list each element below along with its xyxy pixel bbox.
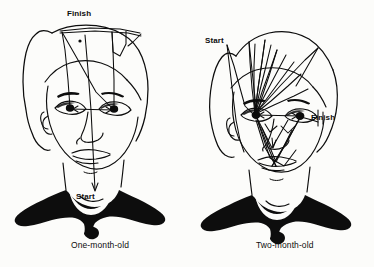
annotation-start-left: Start — [76, 192, 95, 201]
nose-left — [77, 112, 103, 144]
chin-crease-left — [84, 172, 97, 174]
scan-path-one-month-old — [60, 28, 141, 191]
panel-one-month-old — [15, 25, 166, 239]
chin-crease-right — [270, 179, 283, 181]
figure-container: Finish Start Start Finish One-month-old … — [0, 0, 374, 267]
mouth-left — [72, 150, 110, 164]
hairline-left — [45, 61, 141, 100]
figure-illustration — [0, 0, 374, 267]
ear-right-figure — [227, 118, 234, 136]
caption-one-month-old: One-month-old — [71, 240, 129, 250]
neck-right — [249, 167, 310, 206]
annotation-finish-left: Finish — [67, 9, 91, 18]
ear-left-figure — [41, 112, 48, 129]
caption-two-month-old: Two-month-old — [256, 240, 314, 250]
annotation-start-right: Start — [205, 36, 224, 45]
panel-two-month-old — [201, 32, 352, 245]
annotation-finish-right: Finish — [311, 113, 335, 122]
